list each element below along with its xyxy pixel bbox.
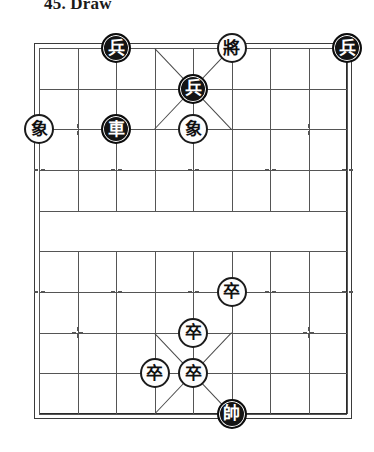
grid-hline-9 <box>39 414 347 415</box>
piece-white-pawn-c5r6[interactable]: 卒 <box>217 277 247 307</box>
grid-vline-1-top <box>78 48 79 211</box>
grid-vline-6-top <box>270 48 271 211</box>
grid-vline-2-bottom <box>116 251 117 414</box>
xiangqi-board[interactable]: 兵將兵兵象車象卒卒卒卒帥 <box>39 48 347 414</box>
grid-vline-1-bottom <box>78 251 79 414</box>
piece-white-general-c5r0[interactable]: 將 <box>217 33 247 63</box>
piece-black-soldier-c2r0[interactable]: 兵 <box>101 33 131 63</box>
grid-hline-4 <box>39 211 347 212</box>
grid-vline-6-bottom <box>270 251 271 414</box>
grid-vline-7-bottom <box>309 251 310 414</box>
piece-white-pawn-c4r7[interactable]: 卒 <box>178 318 208 348</box>
piece-black-marshal-c5r9[interactable]: 帥 <box>217 399 247 429</box>
board-container: 兵將兵兵象車象卒卒卒卒帥 <box>0 0 374 452</box>
grid-vline-7-top <box>309 48 310 211</box>
piece-black-soldier-c8r0[interactable]: 兵 <box>332 33 362 63</box>
piece-white-pawn-c3r8[interactable]: 卒 <box>140 358 170 388</box>
grid-vline-0 <box>39 48 40 414</box>
grid-vline-8 <box>347 48 348 414</box>
piece-black-soldier-c4r1[interactable]: 兵 <box>178 74 208 104</box>
